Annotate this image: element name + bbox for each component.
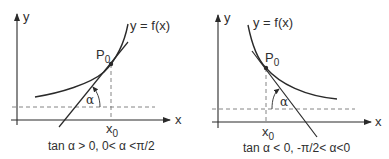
curve-label: y = f(x) xyxy=(130,18,170,33)
caption-increasing: tan α > 0, 0< α <π/2 xyxy=(48,139,155,153)
x-axis-label: x xyxy=(375,114,382,129)
curve-label: y = f(x) xyxy=(253,15,293,30)
function-curve xyxy=(35,24,128,97)
x-axis-label: x xyxy=(175,112,182,127)
function-curve xyxy=(248,25,337,99)
y-axis-label: y xyxy=(224,10,231,25)
y-axis-label: y xyxy=(23,9,30,24)
angle-label: α xyxy=(86,93,94,107)
point-p0 xyxy=(264,66,268,70)
point-label: P0 xyxy=(96,47,111,65)
angle-arc xyxy=(272,89,279,109)
panel-increasing: y x P0 y = f(x) α x0 tan α > 0, 0< α <π/… xyxy=(11,9,182,153)
point-label: P0 xyxy=(265,50,280,68)
tangent-slope-diagram: y x P0 y = f(x) α x0 tan α > 0, 0< α <π/… xyxy=(0,0,389,159)
x0-label: x0 xyxy=(106,121,119,139)
angle-label: α xyxy=(280,95,288,109)
caption-decreasing: tan α < 0, -π/2< α<0 xyxy=(243,141,351,155)
tangent-line xyxy=(59,42,128,127)
x0-label: x0 xyxy=(262,124,275,142)
panel-decreasing: y x P0 y = f(x) α x0 tan α < 0, -π/2< α<… xyxy=(212,10,382,155)
